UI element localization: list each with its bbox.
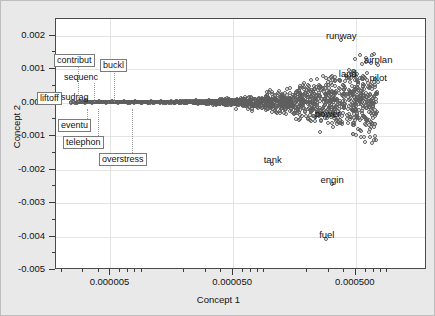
y-axis-tick xyxy=(49,169,55,170)
data-point xyxy=(270,110,274,114)
callout-label-contribut: contribut xyxy=(54,54,95,67)
y-axis-tick xyxy=(49,68,55,69)
x-axis-minor-tick xyxy=(242,269,243,272)
callout-leader-line xyxy=(114,70,115,102)
data-point xyxy=(374,138,378,142)
x-axis-minor-tick xyxy=(98,269,99,272)
data-point xyxy=(367,130,371,134)
x-axis-minor-tick xyxy=(220,269,221,272)
data-point xyxy=(346,121,350,125)
data-point xyxy=(279,107,283,111)
data-point xyxy=(271,95,275,99)
x-axis-minor-tick xyxy=(380,269,381,272)
data-point xyxy=(329,75,333,79)
y-axis-tick-label: -0.002 xyxy=(18,163,45,174)
data-point xyxy=(309,78,313,82)
data-point xyxy=(144,100,148,104)
data-point xyxy=(284,102,288,106)
point-label-runway: runway xyxy=(326,30,357,41)
x-axis-minor-tick xyxy=(250,269,251,272)
x-axis-tick-label: 0.000005 xyxy=(90,276,130,287)
x-axis-minor-tick xyxy=(232,269,233,272)
data-point xyxy=(259,103,263,107)
data-point xyxy=(368,103,372,107)
data-point xyxy=(361,106,365,110)
data-point xyxy=(264,100,268,104)
data-point xyxy=(353,57,357,61)
data-point xyxy=(333,84,337,88)
y-axis-tick-label: -0.004 xyxy=(18,230,45,241)
x-axis-minor-tick xyxy=(263,269,264,272)
callout-label-buckl: buckl xyxy=(100,59,127,72)
x-axis-minor-tick xyxy=(82,269,83,272)
data-point xyxy=(279,100,283,104)
y-axis-tick-label: 0.002 xyxy=(21,29,45,40)
x-axis-minor-tick xyxy=(205,269,206,272)
y-axis-minor-tick xyxy=(52,219,55,220)
y-axis-tick xyxy=(49,135,55,136)
x-axis-minor-tick xyxy=(306,269,307,272)
data-point xyxy=(244,99,248,103)
callout-leader-line xyxy=(132,109,133,153)
data-point xyxy=(309,110,313,114)
y-axis-tick xyxy=(49,269,55,270)
data-point xyxy=(348,80,352,84)
y-axis-minor-tick xyxy=(52,152,55,153)
x-axis-tick-label: 0.000500 xyxy=(335,276,375,287)
x-axis-title: Concept 1 xyxy=(1,294,435,305)
x-axis-minor-tick xyxy=(365,269,366,272)
data-point xyxy=(326,121,330,125)
y-axis-tick-label: -0.001 xyxy=(18,129,45,140)
data-point xyxy=(343,86,347,90)
data-point xyxy=(355,79,359,83)
y-axis-minor-tick xyxy=(52,85,55,86)
data-point xyxy=(289,99,293,103)
data-point xyxy=(362,135,366,139)
data-point xyxy=(317,85,321,89)
gridline-vertical xyxy=(110,19,111,268)
data-point xyxy=(333,79,337,83)
callout-label-sequenc: sequenc xyxy=(62,72,100,83)
x-axis-minor-tick xyxy=(119,269,120,272)
data-point xyxy=(363,140,367,144)
data-point xyxy=(373,85,377,89)
data-point xyxy=(313,119,317,123)
callout-label-telephon: telephon xyxy=(63,136,104,149)
data-point xyxy=(234,107,238,111)
y-axis-minor-tick xyxy=(52,252,55,253)
x-axis-minor-tick xyxy=(134,269,135,272)
x-axis-minor-tick xyxy=(343,269,344,272)
callout-label-eventu: eventu xyxy=(58,119,91,132)
data-point xyxy=(359,93,363,97)
data-point xyxy=(164,101,168,105)
plot-area: runwayairplanlandpilotpowertankenginfuel xyxy=(55,18,426,269)
data-point xyxy=(275,111,279,115)
data-point xyxy=(331,125,335,129)
callout-leader-line xyxy=(87,109,88,119)
y-axis-tick-label: -0.005 xyxy=(18,263,45,274)
data-point xyxy=(315,77,319,81)
point-label-tank: tank xyxy=(264,154,282,165)
data-point xyxy=(274,99,278,103)
data-point xyxy=(139,101,143,105)
x-axis-tick-label: 0.000050 xyxy=(212,276,252,287)
data-point xyxy=(358,118,362,122)
callout-label-sudrag: sudrag xyxy=(59,92,91,103)
y-axis-minor-tick xyxy=(52,51,55,52)
gridline-vertical xyxy=(233,19,234,268)
y-axis-minor-tick xyxy=(52,118,55,119)
x-axis-minor-tick xyxy=(355,269,356,272)
data-point xyxy=(239,101,243,105)
data-point xyxy=(338,79,342,83)
x-axis-minor-tick xyxy=(183,269,184,272)
data-point xyxy=(299,101,303,105)
x-axis-minor-tick xyxy=(141,269,142,272)
x-axis-minor-tick xyxy=(61,269,62,272)
y-axis-tick xyxy=(49,202,55,203)
x-axis-minor-tick xyxy=(373,269,374,272)
callout-label-overstress: overstress xyxy=(99,153,147,166)
y-axis-tick xyxy=(49,35,55,36)
y-axis-tick xyxy=(49,236,55,237)
x-axis-minor-tick xyxy=(386,269,387,272)
data-point xyxy=(116,101,120,105)
